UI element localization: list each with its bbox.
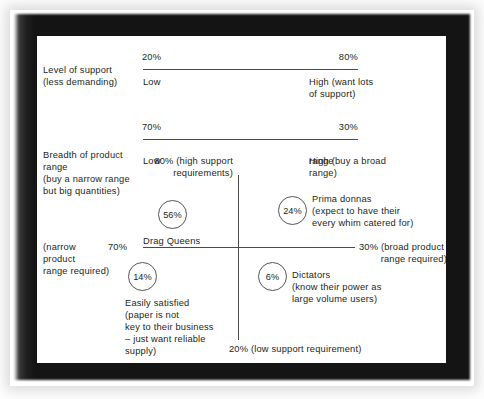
quadrant-bubble-dictators: 6% xyxy=(258,262,287,291)
breadth-row-label-line4: but big quantities) xyxy=(43,185,120,197)
matrix-top-axis-label-line1: 80% (high support xyxy=(137,155,233,167)
quadrant-label-dictators: Dictators xyxy=(292,269,330,281)
matrix-right-axis-label-line1: 30% (broad product xyxy=(359,241,444,253)
matrix-left-axis-label-line3: range required) xyxy=(43,265,109,277)
quadrant-bubble-prima-donnas: 24% xyxy=(278,196,307,225)
quadrant-label-easily-satisfied: Easily satisfied xyxy=(125,297,189,309)
breadth-high-anchor-line2: range) xyxy=(309,167,337,179)
quadrant-desc-dictators-line1: (know their power as xyxy=(292,281,382,293)
quadrant-desc-easily-satisfied-line2: key to their business xyxy=(125,321,214,333)
matrix-left-axis-label-line2: product xyxy=(43,253,75,265)
quadrant-desc-prima-donnas-line1: (expect to have their xyxy=(312,205,400,217)
quadrant-desc-easily-satisfied-line3: – just want reliable xyxy=(125,333,206,345)
matrix-top-axis-label-line2: requirements) xyxy=(137,167,233,179)
matrix-right-axis-label-line2: range required) xyxy=(359,253,446,265)
quadrant-bubble-drag-queens: 56% xyxy=(158,200,187,229)
breadth-left-percent: 70% xyxy=(142,121,161,133)
matrix-bottom-axis-label: 20% (low support requirement) xyxy=(229,343,362,355)
breadth-row-label-line3: (buy a narrow range xyxy=(43,173,130,185)
support-right-percent: 80% xyxy=(299,51,358,63)
chart-canvas: Level of support (less demanding) 20% 80… xyxy=(37,36,446,363)
support-right-anchor-line2: of support) xyxy=(309,88,356,100)
quadrant-label-drag-queens: Drag Queens xyxy=(143,235,200,247)
support-right-anchor-line1: High (want lots xyxy=(309,76,373,88)
support-left-anchor: Low xyxy=(143,76,161,88)
support-scale-rule xyxy=(143,69,358,70)
breadth-scale-rule xyxy=(143,139,358,140)
quadrant-desc-easily-satisfied-line4: supply) xyxy=(125,345,156,357)
support-row-label: Level of support xyxy=(43,64,112,76)
quadrant-desc-dictators-line2: large volume users) xyxy=(292,293,377,305)
breadth-right-percent: 30% xyxy=(299,121,358,133)
breadth-high-anchor-line1: High (buy a broad xyxy=(309,155,386,167)
support-left-percent: 20% xyxy=(142,51,161,63)
quadrant-desc-prima-donnas-line2: every whim catered for) xyxy=(312,217,413,229)
matrix-left-axis-label-line1: (narrow xyxy=(43,241,76,253)
breadth-row-label-line2: range xyxy=(43,161,68,173)
scanned-figure-page: Level of support (less demanding) 20% 80… xyxy=(0,0,484,399)
breadth-row-label-line1: Breadth of product xyxy=(43,149,123,161)
quadrant-label-prima-donnas: Prima donnas xyxy=(312,193,372,205)
quadrant-desc-easily-satisfied-line1: (paper is not xyxy=(125,309,179,321)
matrix-vertical-axis xyxy=(238,175,239,340)
matrix-left-axis-percent: 70% xyxy=(108,241,127,253)
support-row-sublabel: (less demanding) xyxy=(43,76,117,88)
quadrant-bubble-easily-satisfied: 14% xyxy=(128,262,157,291)
